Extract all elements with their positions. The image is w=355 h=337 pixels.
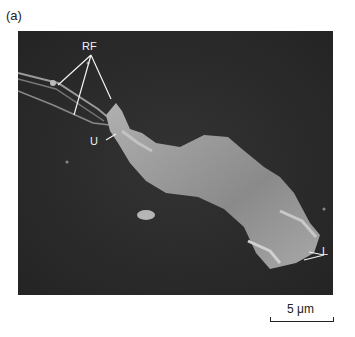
annotation-rf: RF — [82, 40, 97, 52]
annotation-l: L — [322, 245, 328, 257]
scale-bar — [270, 317, 334, 322]
panel-label: (a) — [6, 8, 22, 23]
cell-image — [18, 31, 333, 295]
scale-bar-label: 5 μm — [287, 302, 314, 316]
sem-micrograph: RF U L — [18, 31, 333, 295]
annotation-u: U — [90, 135, 98, 147]
